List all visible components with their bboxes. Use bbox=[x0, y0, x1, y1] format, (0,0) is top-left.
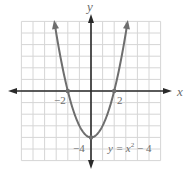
parabola-graph bbox=[0, 0, 188, 170]
x-tick-label-neg2: −2 bbox=[54, 95, 66, 106]
y-axis-label: y bbox=[87, 0, 93, 13]
x-axis-label: x bbox=[177, 85, 183, 98]
y-tick-label-neg4: −4 bbox=[73, 143, 85, 154]
x-tick-label-2: 2 bbox=[117, 95, 123, 106]
equation-label: y = x2 − 4 bbox=[108, 142, 151, 154]
equation-suffix: − 4 bbox=[134, 142, 151, 154]
equation-prefix: y = x bbox=[108, 142, 131, 154]
